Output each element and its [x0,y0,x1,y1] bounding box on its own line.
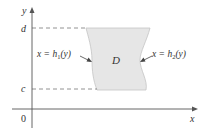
right-curve-label: x = h2(y) [151,49,186,60]
lower-bound-label: c [21,83,26,94]
x-axis-arrow-icon [192,107,198,112]
x-axis-label: x [189,113,195,124]
upper-bound-label: d [21,23,27,34]
origin-label: 0 [21,113,26,124]
region-diagram: y x 0 d c D x = h1(y) x = h2(y) [0,0,205,130]
region-label: D [111,54,120,66]
y-axis-arrow-icon [30,7,35,13]
left-curve-label: x = h1(y) [36,49,71,60]
y-axis-label: y [21,5,27,16]
